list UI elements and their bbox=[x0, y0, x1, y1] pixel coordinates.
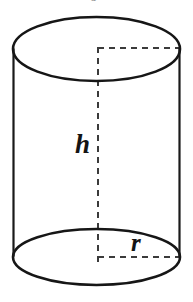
cylinder-illustration bbox=[0, 0, 193, 302]
radius-label: r bbox=[131, 230, 141, 255]
clipped-top-glyph: o bbox=[84, 0, 104, 3]
cylinder-figure: o h r bbox=[0, 0, 193, 302]
cylinder-body-fill bbox=[13, 49, 180, 285]
height-label: h bbox=[75, 131, 90, 158]
